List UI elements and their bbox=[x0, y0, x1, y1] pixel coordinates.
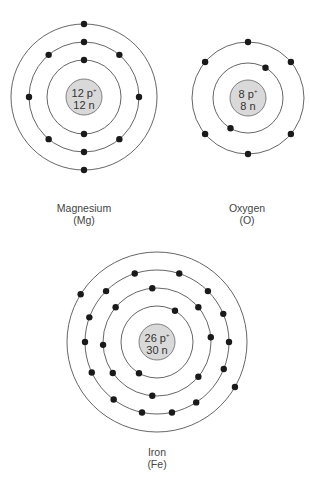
magnesium-nucleus-label: 12 p+ 12 n bbox=[72, 84, 97, 111]
electron bbox=[82, 339, 88, 345]
electron bbox=[208, 334, 214, 340]
electron bbox=[205, 288, 211, 294]
electron bbox=[132, 270, 138, 276]
electron bbox=[232, 384, 238, 390]
electron bbox=[112, 304, 118, 310]
electron bbox=[169, 409, 175, 415]
electron bbox=[149, 285, 155, 291]
electron bbox=[26, 94, 32, 100]
electron bbox=[86, 314, 92, 320]
oxygen-protons: 8 p bbox=[239, 88, 254, 100]
electron bbox=[89, 369, 95, 375]
iron-charge: + bbox=[166, 332, 170, 338]
electron bbox=[77, 291, 83, 297]
iron-symbol: (Fe) bbox=[147, 458, 166, 470]
electron bbox=[193, 399, 199, 405]
electron bbox=[245, 151, 251, 157]
electron bbox=[81, 21, 87, 27]
magnesium-protons: 12 p bbox=[72, 87, 93, 99]
electron bbox=[103, 288, 109, 294]
electron bbox=[172, 308, 178, 314]
oxygen-neutrons: 8 n bbox=[239, 100, 258, 112]
electron bbox=[136, 370, 142, 376]
iron-protons: 26 p bbox=[145, 332, 166, 344]
iron-name: Iron bbox=[147, 446, 166, 458]
electron bbox=[220, 311, 226, 317]
electron bbox=[81, 131, 87, 137]
electron bbox=[202, 59, 208, 65]
electron bbox=[139, 409, 145, 415]
electron bbox=[245, 39, 251, 45]
oxygen-nucleus-label: 8 p+ 8 n bbox=[239, 85, 258, 112]
electron bbox=[100, 342, 106, 348]
electron bbox=[202, 131, 208, 137]
electron bbox=[176, 270, 182, 276]
electron bbox=[221, 366, 227, 372]
oxygen-symbol: (O) bbox=[229, 214, 265, 226]
electron bbox=[81, 39, 87, 45]
magnesium-caption: Magnesium (Mg) bbox=[57, 202, 111, 226]
oxygen-caption: Oxygen (O) bbox=[229, 202, 265, 226]
magnesium-name: Magnesium bbox=[57, 202, 111, 214]
electron bbox=[227, 125, 233, 131]
oxygen-name: Oxygen bbox=[229, 202, 265, 214]
electron bbox=[288, 131, 294, 137]
electron bbox=[116, 136, 122, 142]
magnesium-neutrons: 12 n bbox=[72, 99, 97, 111]
iron-neutrons: 30 n bbox=[145, 344, 170, 356]
electron bbox=[45, 136, 51, 142]
electron bbox=[226, 339, 232, 345]
magnesium-charge: + bbox=[93, 87, 97, 93]
iron-caption: Iron (Fe) bbox=[147, 446, 166, 470]
electron bbox=[136, 94, 142, 100]
electron bbox=[288, 59, 294, 65]
electron bbox=[116, 52, 122, 58]
electron bbox=[195, 374, 201, 380]
iron-nucleus-label: 26 p+ 30 n bbox=[145, 329, 170, 356]
electron bbox=[81, 149, 87, 155]
electron bbox=[81, 167, 87, 173]
electron bbox=[262, 64, 268, 70]
electron bbox=[110, 370, 116, 376]
oxygen-charge: + bbox=[254, 88, 258, 94]
electron bbox=[110, 396, 116, 402]
electron bbox=[81, 57, 87, 63]
electron bbox=[149, 393, 155, 399]
electron bbox=[195, 304, 201, 310]
atom-diagrams bbox=[0, 0, 310, 486]
magnesium-symbol: (Mg) bbox=[57, 214, 111, 226]
electron bbox=[45, 52, 51, 58]
